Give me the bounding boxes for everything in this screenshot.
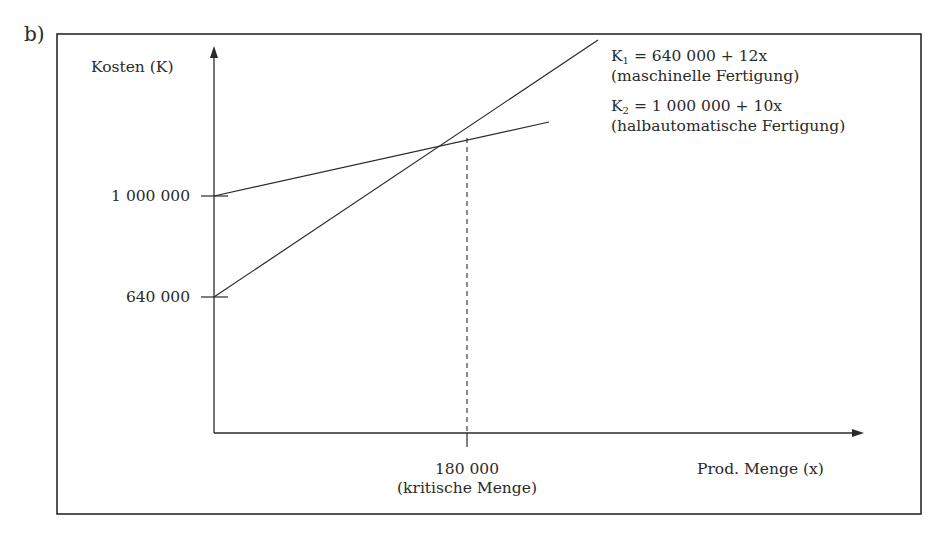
x-axis-label: Prod. Menge (x) — [697, 460, 824, 479]
x-axis-arrow-icon — [852, 429, 864, 437]
y-axis-arrow-icon — [210, 46, 218, 58]
y-tick-label-1000000: 1 000 000 — [90, 187, 190, 206]
legend-k2-description: (halbautomatische Fertigung) — [611, 117, 845, 136]
legend-k1-symbol: K — [611, 47, 623, 65]
legend-k2-symbol: K — [611, 97, 623, 115]
x-marker-caption: (kritische Menge) — [387, 479, 547, 498]
figure-frame — [57, 34, 921, 514]
legend-k1-equation: = 640 000 + 12x — [629, 47, 767, 65]
part-label: b) — [24, 25, 45, 44]
line-k1 — [214, 40, 598, 297]
y-axis-label: Kosten (K) — [91, 58, 173, 77]
legend-k1-description: (maschinelle Fertigung) — [611, 67, 799, 86]
x-marker-value: 180 000 — [387, 460, 547, 479]
y-tick-label-640000: 640 000 — [90, 288, 190, 307]
legend-k2-equation: = 1 000 000 + 10x — [629, 97, 782, 115]
chart-canvas — [0, 0, 942, 537]
